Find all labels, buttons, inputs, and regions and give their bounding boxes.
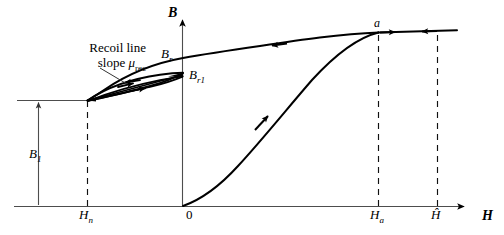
value-label-br: Br: [161, 47, 172, 64]
tick-label-ha: Ha: [370, 208, 384, 225]
axis-label-b: B: [168, 6, 177, 20]
tick-label-hhat: Ĥ: [431, 208, 440, 221]
axis-label-h: H: [482, 209, 493, 223]
recoil-loop: [88, 73, 184, 102]
saturation-plateau: [379, 30, 458, 32]
origin-label: 0: [186, 208, 193, 221]
figure-canvas: Recoil line slope μrec B H 0 Br Br1 B1 H…: [0, 0, 504, 235]
bh-curve-svg: [0, 0, 504, 235]
value-label-br1: Br1: [189, 68, 205, 85]
annotation-line-2-prefix: slope: [98, 55, 129, 70]
b1-dimension: [17, 101, 88, 206]
point-label-a: a: [374, 17, 380, 29]
arrow-recoil-upper: [125, 80, 140, 82]
annotation-line-1: Recoil line: [89, 40, 146, 55]
mu-subscript: rec: [135, 63, 146, 73]
tick-label-hn: Hn: [79, 208, 93, 225]
recoil-line-annotation: Recoil line slope μrec: [38, 40, 146, 74]
initial-magnetization-curve: [183, 33, 379, 207]
arrow-initial-curve: [255, 116, 268, 130]
value-label-b1: B1: [29, 147, 41, 164]
